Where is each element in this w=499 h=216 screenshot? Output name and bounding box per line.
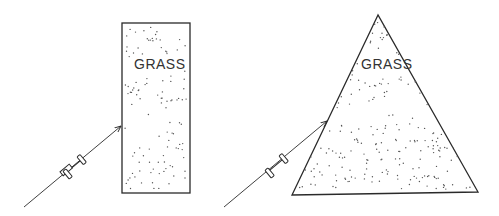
grass-label-left: GRASS xyxy=(134,56,186,72)
car-trajectory-arrow-left xyxy=(24,126,121,207)
grass-rectangle xyxy=(122,23,190,193)
car-icon-right xyxy=(264,153,290,178)
grass-triangle xyxy=(292,15,478,195)
grass-dots-tri xyxy=(299,22,471,190)
grass-label-right: GRASS xyxy=(361,56,413,72)
car-icon-left xyxy=(60,154,88,180)
right-panel xyxy=(224,15,478,207)
grass-dots-rect xyxy=(124,27,186,190)
diagram-canvas xyxy=(0,0,499,216)
left-panel xyxy=(24,23,190,207)
